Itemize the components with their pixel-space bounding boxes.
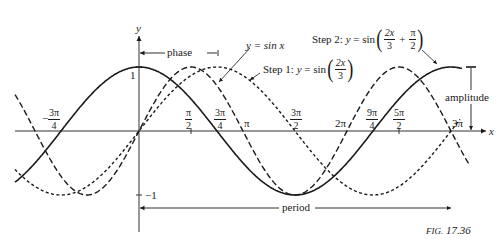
step1-fn: sin xyxy=(313,63,326,75)
y-tick-label-1: 1 xyxy=(130,70,136,81)
figure-caption-prefix: FIG. xyxy=(426,226,443,236)
step2-plus: + xyxy=(399,33,405,45)
x-tick-label-3pi2: 3π2 xyxy=(290,108,302,131)
x-tick-label-3pi4: 3π4 xyxy=(214,108,226,131)
phase-label: phase xyxy=(167,47,192,58)
amplitude-label: amplitude xyxy=(445,92,489,103)
leader-step2 xyxy=(422,50,437,64)
step1-y: y xyxy=(297,63,302,75)
x-tick-label-9pi4: 9π4 xyxy=(366,108,378,131)
x-tick-label-pi2: π2 xyxy=(185,108,192,131)
x-tick-label-2pi: 2π xyxy=(335,118,346,129)
step2-prefix: Step 2: xyxy=(312,33,343,45)
step2-fraction-1: 2x3 xyxy=(384,28,395,51)
step1-equation: Step 1: y = sin ( 2x3 ) xyxy=(263,56,355,82)
step1-equals: = xyxy=(304,63,310,75)
leader-step1 xyxy=(250,73,260,80)
x-tick-label-pi: π xyxy=(244,118,250,129)
step1-prefix: Step 1: xyxy=(263,63,294,75)
figure-caption: FIG. 17.36 xyxy=(426,224,471,236)
x-tick-label-neg3pi4: 3π4 xyxy=(48,108,60,131)
x-tick-label-5pi2: 5π2 xyxy=(393,108,405,131)
y-axis-label: y xyxy=(136,23,141,34)
step2-fn: sin xyxy=(362,33,375,45)
step2-fraction-2: π2 xyxy=(409,28,416,51)
sine-transformation-diagram xyxy=(0,0,501,251)
x-tick-label-3pi: 3π xyxy=(452,118,463,129)
step2-equals: = xyxy=(353,33,359,45)
step2-y: y xyxy=(346,33,351,45)
figure-caption-number: 17.36 xyxy=(446,224,471,236)
step1-fraction: 2x3 xyxy=(335,58,346,81)
sin-curve-label: y = sin x xyxy=(246,40,284,51)
y-tick-label-neg1: −1 xyxy=(145,190,157,201)
x-axis-label: x xyxy=(489,126,494,137)
step2-equation: Step 2: y = sin ( 2x3 + π2 ) xyxy=(312,26,425,52)
period-label: period xyxy=(282,202,310,213)
